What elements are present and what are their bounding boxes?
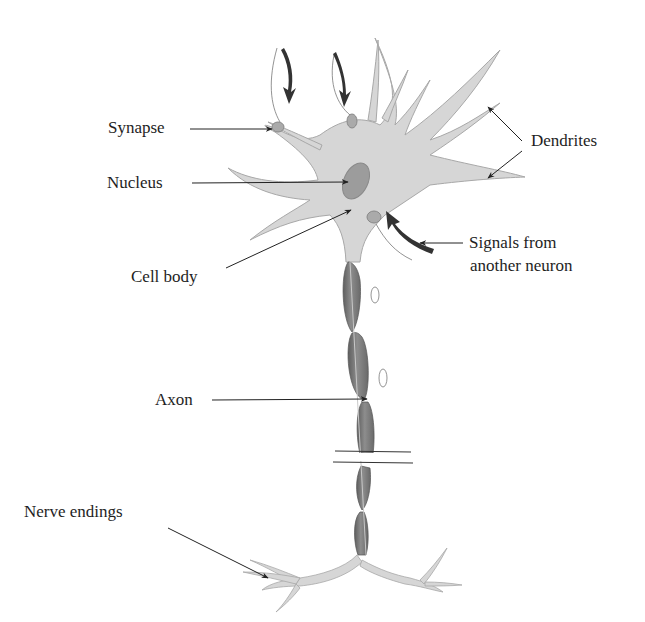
signals-label-line2: another neuron (470, 256, 572, 276)
neuron-illustration (0, 0, 645, 622)
synapse-knob-3 (367, 211, 381, 223)
cell-body-shape (228, 38, 525, 262)
synapse-knob-2 (347, 114, 357, 128)
axon-shape (343, 262, 387, 555)
nerve-endings-pointer (168, 528, 268, 578)
signal-arrow-2 (333, 52, 351, 107)
nucleus-label: Nucleus (107, 173, 163, 193)
dendrite-pointer-upper (488, 107, 522, 141)
synapse-label: Synapse (108, 118, 165, 138)
dendrites-label: Dendrites (531, 131, 597, 151)
axon-label: Axon (155, 390, 193, 410)
nerve-endings-shape (243, 548, 462, 612)
nerve-endings-label: Nerve endings (24, 502, 123, 522)
axon-pointer (212, 399, 367, 400)
synapse-knob-1 (272, 122, 284, 132)
signals-label-line1: Signals from (469, 233, 556, 253)
signal-arrow-1 (281, 48, 296, 104)
cell-body-label: Cell body (131, 267, 198, 287)
neuron-diagram: Synapse Nucleus Cell body Dendrites Sign… (0, 0, 645, 622)
